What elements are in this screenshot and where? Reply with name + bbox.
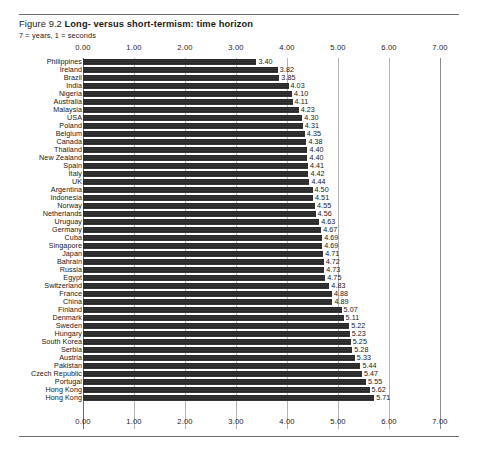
page-title: Long- versus short-termism: time horizon [65,19,253,29]
bar [83,147,307,153]
bar [83,347,352,353]
bar [83,299,332,305]
bar [83,339,351,345]
category-label: Hong Kong [46,394,82,402]
bar [83,91,292,97]
x-tick-top-4.00: 4.00 [279,43,295,52]
bar [83,195,313,201]
bar [83,291,332,297]
x-tick-bottom-4.00: 4.00 [279,417,295,426]
bar-value-label: 5.71 [376,394,390,402]
bar [83,171,308,177]
page-rule-bottom [19,436,459,437]
bar [83,363,360,369]
bar [83,267,324,273]
x-tick-top-3.00: 3.00 [228,43,244,52]
bar-row: Hong Kong5.71 [0,394,478,402]
figure-number: Figure 9.2 [19,19,62,29]
x-tick-top-2.00: 2.00 [177,43,193,52]
bar [83,315,344,321]
bar [83,99,293,105]
bar [83,211,316,217]
bar [83,283,329,289]
bar [83,251,323,257]
bar [83,123,303,129]
bar [83,227,321,233]
bar [83,331,350,337]
bar [83,163,308,169]
bar [83,59,256,65]
x-tick-bottom-7.00: 7.00 [432,417,448,426]
bar [83,355,355,361]
bar [83,131,305,137]
bar [83,387,370,393]
x-tick-top-1.00: 1.00 [126,43,142,52]
bar [83,379,366,385]
bar [83,83,289,89]
bar [83,323,349,329]
bar [83,235,322,241]
bar [83,395,374,401]
x-tick-bottom-5.00: 5.00 [330,417,346,426]
bar [83,179,309,185]
bar [83,115,302,121]
bar [83,371,362,377]
bar [83,275,325,281]
x-tick-top-5.00: 5.00 [330,43,346,52]
bar [83,219,319,225]
x-tick-bottom-6.00: 6.00 [381,417,397,426]
x-tick-bottom-1.00: 1.00 [126,417,142,426]
bar [83,243,322,249]
bar [83,187,313,193]
x-tick-bottom-2.00: 2.00 [177,417,193,426]
figure-page: Figure 9.2 Long- versus short-termism: t… [0,0,478,450]
figure-subtitle: 7 = years, 1 = seconds [19,31,96,40]
bar [83,203,315,209]
page-rule-top [19,14,459,15]
bar-chart: 0.001.002.003.004.005.006.007.00 0.001.0… [0,43,478,431]
bar [83,307,342,313]
bar-value-label: 3.40 [258,58,272,66]
x-tick-top-0.00: 0.00 [75,43,91,52]
x-tick-bottom-0.00: 0.00 [75,417,91,426]
x-tick-top-7.00: 7.00 [432,43,448,52]
bar [83,75,279,81]
bar [83,139,306,145]
x-tick-top-6.00: 6.00 [381,43,397,52]
bar [83,259,324,265]
bar-rows: Philippines3.40Ireland3.82Brazil3.85Indi… [0,58,478,402]
bar [83,67,278,73]
figure-caption: Figure 9.2 Long- versus short-termism: t… [19,19,253,30]
bar [83,155,307,161]
x-tick-bottom-3.00: 3.00 [228,417,244,426]
bar [83,107,299,113]
